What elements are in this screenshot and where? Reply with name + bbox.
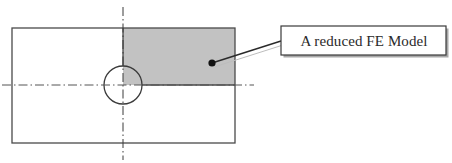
fe-model-diagram — [0, 0, 452, 163]
leader-dot — [208, 59, 215, 66]
callout-label: A reduced FE Model — [282, 27, 446, 55]
